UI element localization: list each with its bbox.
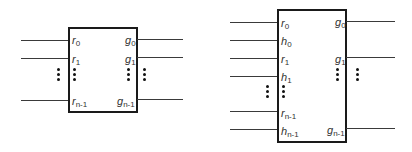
label-sub: 0: [285, 22, 289, 31]
left-output-label-1: g1: [125, 54, 136, 67]
left-output-wire-1: [137, 57, 183, 58]
right-output-label-0: g0: [335, 17, 346, 30]
left-output-wire-n-1: [137, 99, 183, 100]
right-output-wire-0: [346, 21, 395, 22]
diagram-canvas: r0 r1 rn-1 g0 g1 gn-1 r0 h0 r1 h1 rn-1 h…: [0, 0, 412, 152]
right-output-inner-ellipsis-icon: [336, 68, 339, 83]
right-input-label-r0: r0: [281, 18, 289, 31]
label-sub: n-1: [123, 100, 135, 109]
label-sub: 0: [131, 39, 135, 48]
label-sub: 0: [287, 40, 291, 49]
right-input-inner-ellipsis-icon: [282, 85, 285, 100]
label-sub: 1: [285, 58, 289, 67]
left-output-label-n-1: gn-1: [117, 96, 135, 109]
left-input-label-1: r1: [72, 54, 80, 67]
left-input-label-0: r0: [72, 35, 80, 48]
label-sub: 0: [76, 39, 80, 48]
label-sub: n-1: [333, 129, 345, 138]
right-input-label-rn-1: rn-1: [281, 108, 296, 121]
left-input-inner-ellipsis-icon: [73, 68, 76, 83]
label-sub: 0: [341, 21, 345, 30]
right-input-label-r1: r1: [281, 54, 289, 67]
label-sub: 1: [341, 58, 345, 67]
right-input-wire-h0: [230, 40, 277, 41]
label-sub: 1: [76, 58, 80, 67]
right-output-outer-ellipsis-icon: [356, 68, 359, 83]
left-input-label-n-1: rn-1: [72, 96, 87, 109]
right-output-label-n-1: gn-1: [327, 125, 345, 138]
right-input-wire-hn-1: [230, 129, 277, 130]
left-output-outer-ellipsis-icon: [143, 68, 146, 83]
right-input-wire-h1: [230, 76, 277, 77]
right-input-label-h0: h0: [281, 36, 292, 49]
label-sub: n-1: [285, 112, 297, 121]
label-sub: 1: [287, 76, 291, 85]
left-input-wire-n-1: [21, 100, 68, 101]
label-sub: n-1: [76, 100, 88, 109]
left-input-wire-1: [21, 58, 68, 59]
right-output-label-1: g1: [335, 54, 346, 67]
label-sub: 1: [131, 58, 135, 67]
right-input-wire-rn-1: [230, 111, 277, 112]
right-input-label-h1: h1: [281, 72, 292, 85]
left-output-label-0: g0: [125, 35, 136, 48]
left-output-wire-0: [137, 39, 183, 40]
left-input-wire-0: [21, 40, 68, 41]
right-output-wire-1: [346, 57, 395, 58]
right-input-wire-r0: [230, 22, 277, 23]
left-output-inner-ellipsis-icon: [127, 68, 130, 83]
right-input-label-hn-1: hn-1: [281, 126, 299, 139]
left-input-outer-ellipsis-icon: [57, 68, 60, 83]
right-input-wire-r1: [230, 58, 277, 59]
right-input-outer-ellipsis-icon: [266, 85, 269, 100]
right-output-wire-n-1: [346, 128, 395, 129]
label-sub: n-1: [287, 130, 299, 139]
